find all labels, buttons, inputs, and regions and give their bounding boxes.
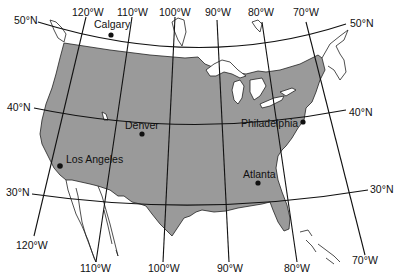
label-80w-top: 80°W <box>248 6 274 18</box>
us-landmass <box>40 43 325 236</box>
mexico-mainland-coast <box>98 186 118 256</box>
city-label-calgary: Calgary <box>94 18 131 30</box>
island-north-80w <box>252 20 262 32</box>
city-dot-philadelphia[interactable] <box>300 119 305 124</box>
label-100w-top: 100°W <box>159 6 191 18</box>
label-120w-bottom: 120°W <box>16 239 48 251</box>
meridian-70w[interactable] <box>306 22 365 255</box>
label-110w-bottom: 110°W <box>80 262 111 274</box>
city-label-philadelphia: Philadelphia <box>241 117 298 129</box>
label-50n-right: 50°N <box>350 17 373 29</box>
label-100w-bottom: 100°W <box>148 262 180 274</box>
label-40n-right: 40°N <box>349 106 372 118</box>
city-dot-los-angeles[interactable] <box>57 163 63 169</box>
label-30n-right: 30°N <box>370 183 393 195</box>
vancouver-island <box>50 20 66 42</box>
baja-california <box>66 180 96 262</box>
city-label-los-angeles: Los Angeles <box>66 153 123 165</box>
city-dot-calgary[interactable] <box>108 32 113 37</box>
bahamas-cuba-islands <box>300 230 340 264</box>
map: 50°N 50°N 40°N 40°N 30°N 30°N 120°W 110°… <box>0 0 399 279</box>
label-120w-top: 120°W <box>72 6 104 18</box>
nova-scotia-coast <box>322 30 348 80</box>
label-70w-top: 70°W <box>293 6 319 18</box>
label-90w-bottom: 90°W <box>217 262 243 274</box>
label-50n-left: 50°N <box>14 14 37 26</box>
city-label-denver: Denver <box>125 119 159 131</box>
label-90w-top: 90°W <box>205 6 231 18</box>
label-30n-left: 30°N <box>6 186 29 198</box>
city-dot-atlanta[interactable] <box>255 180 260 185</box>
label-110w-top: 110°W <box>117 6 148 18</box>
label-80w-bottom: 80°W <box>284 262 310 274</box>
label-40n-left: 40°N <box>7 101 30 113</box>
city-label-atlanta: Atlanta <box>243 168 276 180</box>
city-dot-denver[interactable] <box>139 131 144 136</box>
label-70w-bottom: 70°W <box>352 254 378 266</box>
